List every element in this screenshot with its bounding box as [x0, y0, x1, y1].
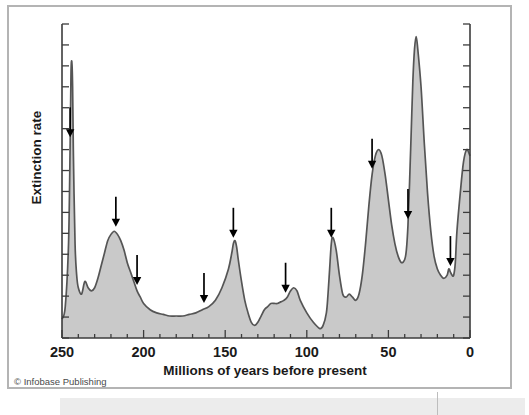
down-arrow-icon — [200, 273, 208, 303]
down-arrow-icon — [112, 197, 120, 227]
x-axis-title: Millions of years before present — [120, 363, 410, 378]
down-arrow-icon — [281, 263, 289, 293]
x-tick-label: 250 — [50, 344, 74, 360]
x-tick-label: 0 — [466, 344, 474, 360]
down-arrow-icon — [327, 208, 335, 238]
chart-plot-area: Extinction rate Millions of years before… — [0, 0, 529, 415]
publisher-credit: © Infobase Publishing — [14, 376, 107, 387]
figure-screenshot: Extinction rate Millions of years before… — [0, 0, 529, 415]
y-axis-title: Extinction rate — [29, 98, 44, 218]
down-arrow-icon — [446, 236, 454, 266]
x-tick-label: 50 — [380, 344, 396, 360]
x-tick-label: 100 — [295, 344, 319, 360]
x-tick-label: 200 — [131, 344, 155, 360]
x-tick-label: 150 — [213, 344, 237, 360]
down-arrow-icon — [229, 208, 237, 238]
extinction-rate-chart — [0, 0, 529, 415]
